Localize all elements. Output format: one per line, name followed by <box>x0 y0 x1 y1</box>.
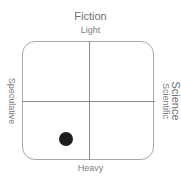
axis-label-speculative: Speculative <box>6 66 18 136</box>
position-marker-dot[interactable] <box>59 132 73 146</box>
axis-label-heavy: Heavy <box>0 163 181 173</box>
horizontal-axis-line <box>22 101 155 102</box>
axis-label-light: Light <box>0 25 181 35</box>
science-title: Science <box>169 66 181 136</box>
fiction-title: Fiction <box>0 10 181 22</box>
